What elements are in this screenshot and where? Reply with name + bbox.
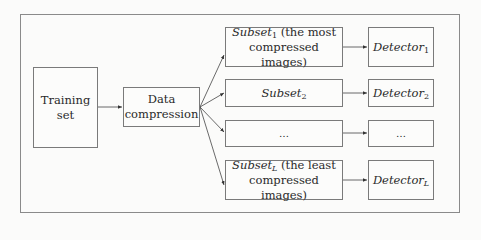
subset-dots-node: … [225,120,343,147]
detector-dots-node: … [368,120,434,147]
subset-L-name: Subset [232,158,272,172]
detector-1-name: Detector [373,40,424,54]
data-compression-line2: compression [125,107,199,121]
detector-1-node: Detector1 [368,27,434,67]
detector-dots-text: … [396,126,406,141]
subset-2-name: Subset [261,86,301,100]
detector-L-node: DetectorL [368,160,434,200]
subset-L-node: SubsetL (the least compressed images) [225,160,343,200]
subset-1-line2: compressed images) [249,40,319,69]
subset-1-suffix: (the most [277,25,336,39]
detector-L-name: Detector [373,173,424,187]
subset-1-name: Subset [232,25,272,39]
subset-1-node: Subset1 (the most compressed images) [225,27,343,67]
training-set-line1: Training [41,93,91,107]
detector-2-name: Detector [373,86,424,100]
detector-2-node: Detector2 [368,79,434,107]
detector-2-sub: 2 [424,92,429,101]
data-compression-node: Data compression [123,87,200,127]
training-set-node: Training set [33,67,98,148]
training-set-line2: set [57,108,74,122]
subset-L-suffix: (the least [277,158,336,172]
arrow-compression-to-subset1 [200,55,224,107]
subset-dots-text: … [279,126,289,141]
arrow-compression-to-subsetL [200,107,224,185]
subset-2-sub: 2 [301,92,306,101]
detector-L-sub: L [424,179,429,188]
subset-2-node: Subset2 [225,79,343,107]
detector-1-sub: 1 [424,46,429,55]
data-compression-line1: Data [148,92,176,106]
subset-L-line2: compressed images) [249,173,319,202]
